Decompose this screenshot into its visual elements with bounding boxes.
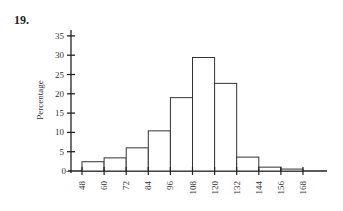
histogram-bar (148, 131, 170, 171)
x-tick-label: 84 (143, 181, 153, 191)
y-tick-label: 35 (55, 31, 65, 41)
histogram-bar (193, 58, 215, 171)
histogram-bar (237, 157, 259, 171)
histogram-bar (104, 158, 126, 171)
y-axis-label: Percentage (35, 80, 45, 119)
y-tick-label: 30 (55, 50, 65, 60)
histogram-bar (82, 162, 104, 171)
histogram-bar (215, 83, 237, 171)
y-tick-label: 5 (60, 147, 65, 157)
y-tick-label: 20 (55, 89, 65, 99)
x-tick-label: 132 (232, 181, 242, 195)
x-tick-label: 72 (121, 181, 131, 190)
x-tick-label: 120 (210, 181, 220, 195)
histogram-bar (281, 169, 303, 171)
histogram-chart: 0-51015202530354860728496108120132144156… (0, 0, 343, 211)
x-tick-label: 156 (276, 181, 286, 195)
y-tick-label: 10 (55, 127, 65, 137)
x-tick-label: 96 (165, 181, 175, 191)
y-tick-label: 15 (55, 108, 65, 118)
y-tick-label: 25 (55, 70, 65, 80)
histogram-bar (259, 167, 281, 171)
x-tick-label: 48 (77, 181, 87, 191)
x-tick-label: 60 (99, 181, 109, 191)
x-tick-label: 144 (254, 181, 264, 195)
y-tick-label: 0- (62, 166, 70, 176)
histogram-bar (126, 148, 148, 171)
x-tick-label: 168 (298, 181, 308, 195)
histogram-bar (170, 98, 192, 171)
x-tick-label: 108 (188, 181, 198, 195)
